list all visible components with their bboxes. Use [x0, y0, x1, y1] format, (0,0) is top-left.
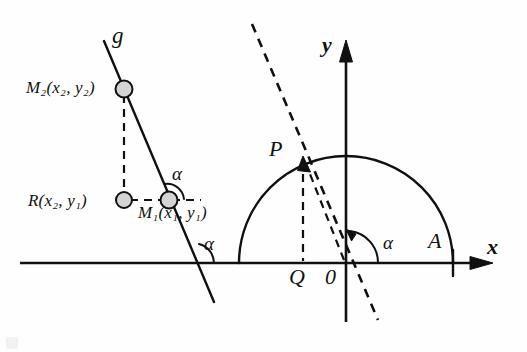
dashed-line-through-origin [252, 24, 378, 320]
geometry-figure: g M₂(x₂, y₂) R(x₂, y₁) M₁(x₁, y₁) α α P … [0, 0, 527, 352]
point-p-label: P [269, 138, 282, 160]
point-q-label: Q [289, 266, 305, 288]
point-r-label: R(x₂, y₁) [28, 192, 87, 209]
angle-upper-alpha-label: α [172, 164, 182, 183]
y-axis-arrowhead [340, 40, 353, 62]
angle-lower-alpha-label: α [204, 234, 214, 253]
origin-label: 0 [325, 266, 336, 288]
line-g-label: g [112, 24, 124, 47]
diagram-canvas [0, 0, 527, 352]
radius-op-dashed [306, 164, 344, 260]
scan-artifact [6, 337, 18, 349]
angle-origin-alpha-label: α [383, 233, 393, 252]
point-marker-r [116, 192, 132, 208]
y-axis-label: y [322, 34, 332, 56]
point-m2-label: M₂(x₂, y₂) [26, 79, 95, 96]
point-a-label: A [428, 230, 441, 252]
x-axis-label: x [487, 236, 498, 258]
point-m1-label: M₁(x₁, y₁) [138, 204, 207, 221]
point-marker-m2 [116, 81, 133, 98]
